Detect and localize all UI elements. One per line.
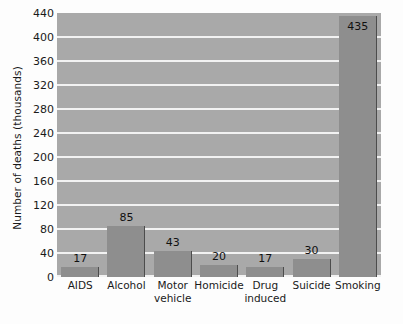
bar[interactable] — [61, 267, 99, 277]
bar-slot: 85 — [103, 13, 149, 277]
y-axis-tick-label: 400 — [18, 32, 54, 43]
y-axis-tick-label: 320 — [18, 80, 54, 91]
bar-value-label: 85 — [119, 212, 133, 223]
x-axis-tick-label: Alcohol — [107, 279, 145, 292]
x-axis-tick-label: AIDS — [68, 279, 93, 292]
y-axis-tick-label: 360 — [18, 56, 54, 67]
y-axis-tick-label: 80 — [18, 224, 54, 235]
x-axis-tick-label: Motorvehicle — [154, 279, 191, 304]
bar[interactable] — [246, 267, 284, 277]
y-axis-tick-label: 200 — [18, 152, 54, 163]
y-axis-tick-label: 240 — [18, 128, 54, 139]
x-axis-tick-labels: AIDSAlcoholMotorvehicleHomicideDruginduc… — [57, 279, 381, 324]
bar-slot: 17 — [242, 13, 288, 277]
bar-value-label: 17 — [73, 253, 87, 264]
bar-slot: 30 — [288, 13, 334, 277]
bar[interactable] — [339, 16, 377, 277]
bar-slot: 20 — [196, 13, 242, 277]
y-axis-tick-label: 280 — [18, 104, 54, 115]
y-axis-tick-label: 440 — [18, 8, 54, 19]
x-axis-tick-label: Smoking — [335, 279, 381, 292]
y-axis-tick-label: 160 — [18, 176, 54, 187]
bar[interactable] — [200, 265, 238, 277]
bar-slot: 17 — [57, 13, 103, 277]
bar-value-label: 43 — [166, 237, 180, 248]
x-axis-tick-label: Homicide — [194, 279, 243, 292]
plot-area: 178543201730435 — [57, 13, 381, 277]
bar-value-label: 435 — [347, 21, 368, 32]
y-axis-tick-label: 40 — [18, 248, 54, 259]
y-axis-tick-labels: 04080120160200240280320360400440 — [18, 0, 54, 324]
bars-layer: 178543201730435 — [57, 13, 381, 277]
bar-value-label: 30 — [305, 245, 319, 256]
y-axis-tick-label: 0 — [18, 272, 54, 283]
x-axis-tick-label: Suicide — [293, 279, 331, 292]
y-axis-tick-label: 120 — [18, 200, 54, 211]
bar[interactable] — [154, 251, 192, 277]
x-axis-tick-label: Druginduced — [244, 279, 286, 304]
bar-chart: Number of deaths (thousands) 04080120160… — [0, 0, 403, 324]
bar[interactable] — [293, 259, 331, 277]
bar-value-label: 20 — [212, 251, 226, 262]
bar-slot: 43 — [150, 13, 196, 277]
bar-value-label: 17 — [258, 253, 272, 264]
bar[interactable] — [107, 226, 145, 277]
bar-slot: 435 — [335, 13, 381, 277]
